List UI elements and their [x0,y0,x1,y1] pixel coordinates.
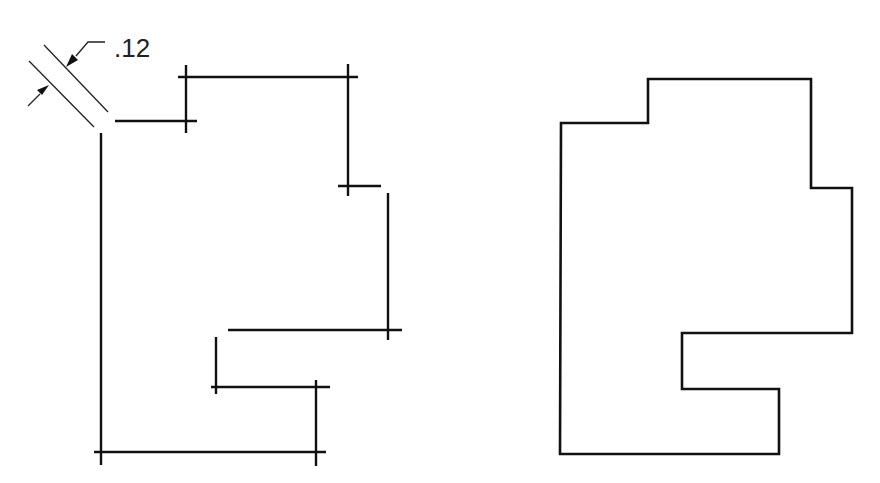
dimension-arrow-lower-shaft [28,94,40,106]
dimension-leader [76,42,105,56]
arrow-head-icon [37,85,49,95]
dimension-callout: .12 [28,33,150,127]
left-drawing [94,64,402,466]
offset-line-outer [29,61,94,127]
finished-outline [560,79,852,454]
drawing-canvas: .12 [0,0,880,483]
dimension-label: .12 [114,33,150,63]
